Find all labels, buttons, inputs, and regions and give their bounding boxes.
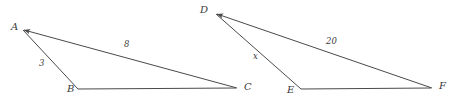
triangle-def-strokes xyxy=(216,14,432,89)
vertex-label-c: C xyxy=(244,82,252,92)
triangle-abc-strokes xyxy=(23,30,237,89)
vertex-label-b: B xyxy=(67,84,75,94)
segment-ab xyxy=(23,30,78,89)
segment-df xyxy=(217,14,432,88)
segment-ac xyxy=(24,30,237,88)
segment-ef xyxy=(301,88,431,89)
vertex-label-f: F xyxy=(439,81,446,91)
vertex-label-d: D xyxy=(200,5,208,15)
side-measure-ac: 8 xyxy=(124,40,130,49)
side-measure-de: x xyxy=(253,52,258,61)
vertex-label-a: A xyxy=(11,22,18,32)
segment-bc xyxy=(78,88,236,89)
side-measure-df: 20 xyxy=(326,37,337,46)
side-measure-ab: 3 xyxy=(39,59,45,68)
vertex-label-e: E xyxy=(287,85,295,95)
geometry-diagram: A B C 3 8 D E F x 20 xyxy=(0,0,457,101)
segment-de xyxy=(216,14,301,89)
